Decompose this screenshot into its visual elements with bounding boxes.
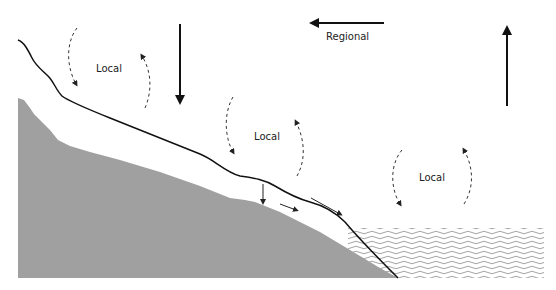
local-label-middle: Local	[254, 131, 280, 142]
local-circulation-middle: Local	[226, 97, 303, 176]
regional-label: Regional	[326, 31, 369, 42]
local-circulation-right: Local	[393, 150, 472, 204]
ground-slope	[18, 98, 398, 278]
local-circulation-left: Local	[69, 28, 150, 108]
slope-wind-diagram: Regional Local Local Local	[0, 0, 556, 290]
local-label-left: Local	[96, 63, 122, 74]
local-label-right: Local	[419, 172, 445, 183]
